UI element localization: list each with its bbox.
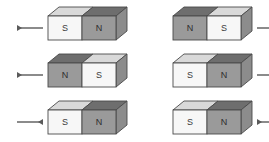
pole-label-left: S (187, 70, 193, 80)
pole-label-right: N (96, 117, 103, 127)
magnet-r3c1: SN (48, 101, 127, 134)
pole-label-left: N (187, 23, 194, 33)
magnet-r1c1: SN (48, 7, 127, 40)
magnet-force-diagram: SNNSNSSNSNSN (0, 0, 269, 142)
pole-label-right: N (221, 117, 228, 127)
pole-label-left: S (62, 117, 68, 127)
pole-label-left: S (62, 23, 68, 33)
magnet-r2c2: SN (173, 54, 252, 87)
magnet-r1c2: NS (173, 7, 252, 40)
magnet-r2c1: NS (48, 54, 127, 87)
pole-label-left: S (187, 117, 193, 127)
pole-label-right: S (221, 23, 227, 33)
magnet-r3c2: SN (173, 101, 252, 134)
pole-label-right: N (221, 70, 228, 80)
pole-label-left: N (62, 70, 69, 80)
pole-label-right: N (96, 23, 103, 33)
pole-label-right: S (96, 70, 102, 80)
